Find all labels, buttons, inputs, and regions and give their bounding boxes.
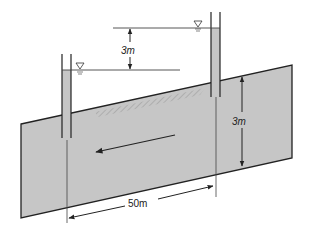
right-tube-water bbox=[211, 28, 220, 97]
right-piezometer bbox=[211, 12, 220, 97]
water-level-icon-left bbox=[76, 63, 84, 74]
left-tube-water bbox=[62, 70, 71, 138]
distance-label-text: 50m bbox=[128, 198, 147, 209]
left-piezometer bbox=[62, 54, 71, 138]
distance-arrow-left bbox=[69, 206, 125, 218]
thickness-label: 3m bbox=[232, 116, 246, 127]
distance-label: 50m bbox=[128, 198, 147, 209]
aquifer-diagram: 3m 3m 50m bbox=[0, 0, 309, 235]
water-level-icon-right bbox=[194, 21, 202, 31]
distance-arrow-right bbox=[158, 186, 213, 199]
head-difference-label: 3m bbox=[121, 45, 135, 56]
